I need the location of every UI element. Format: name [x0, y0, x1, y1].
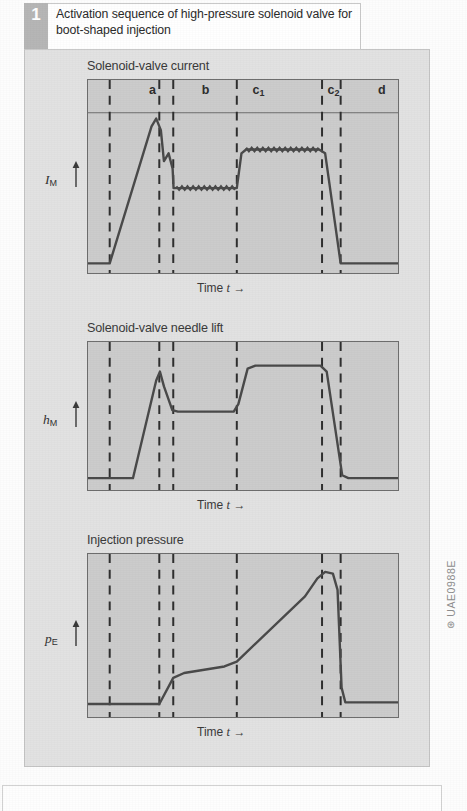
figure-id-text: UAE0988E	[445, 560, 457, 617]
plot-area-current	[87, 79, 399, 274]
chart-title-injection-pressure: Injection pressure	[87, 533, 184, 547]
page-title: Activation sequence of high-pressure sol…	[56, 7, 356, 38]
chart-solenoid-valve-needle-lift: Solenoid-valve needle lift hM Time t →	[25, 319, 431, 531]
phase-label-d: d	[362, 83, 402, 97]
phase-label-c2: c2	[313, 83, 353, 98]
plot-area-needle-lift	[87, 341, 399, 491]
y-axis-label-needle-lift: hM	[43, 412, 57, 428]
phase-label-a: a	[133, 83, 173, 97]
phase-label-b: b	[186, 83, 226, 97]
y-axis-arrow-needle-lift	[71, 401, 81, 427]
x-axis-label-current: Time t →	[197, 281, 245, 296]
y-axis-arrow-current	[71, 161, 81, 187]
y-axis-label-injection-pressure: pE	[45, 631, 58, 647]
y-axis-label-current: IM	[45, 172, 57, 188]
figure-page: 1 Activation sequence of high-pressure s…	[0, 0, 467, 811]
plot-area-injection-pressure	[87, 553, 399, 718]
chart-title-needle-lift: Solenoid-valve needle lift	[87, 321, 223, 335]
y-axis-arrow-injection-pressure	[71, 620, 81, 646]
next-figure-panel	[2, 785, 442, 811]
chart-solenoid-valve-current: Solenoid-valve current a b c1 c2 d IM Ti…	[25, 57, 431, 319]
figure-body: Solenoid-valve current a b c1 c2 d IM Ti…	[24, 49, 430, 767]
x-axis-label-needle-lift: Time t →	[197, 498, 245, 513]
x-axis-label-injection-pressure: Time t →	[197, 725, 245, 740]
publisher-mark-icon: ⊛	[445, 620, 456, 629]
plot-svg-needle-lift	[88, 342, 398, 490]
figure-number-badge: 1	[24, 3, 48, 49]
plot-svg-current	[88, 80, 398, 273]
phase-label-c1: c1	[239, 83, 279, 98]
chart-injection-pressure: Injection pressure pE Time t →	[25, 531, 431, 761]
chart-title-current: Solenoid-valve current	[87, 59, 209, 73]
plot-svg-injection-pressure	[88, 554, 398, 717]
figure-id-code: ⊛ UAE0988E	[445, 560, 461, 632]
